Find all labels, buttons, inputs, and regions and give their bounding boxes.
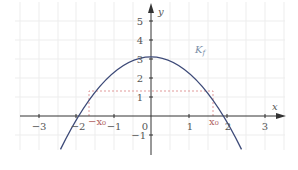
grid	[15, 2, 285, 150]
x-axis-label: x	[272, 101, 278, 112]
y-axis-arrow-icon	[148, 3, 154, 13]
parabola-chart: −3 −2 −1 0 1 2 3 5 4 3 2 1 −1 y x −x₀ x₀…	[0, 0, 298, 170]
x-tick-label: −1	[107, 121, 122, 132]
y-tick-label: 5	[137, 16, 143, 27]
x-tick-label: 1	[187, 121, 193, 132]
y-tick-label: 4	[137, 35, 143, 46]
y-tick-label: 2	[137, 73, 143, 84]
curve-label-kf: Kf	[194, 44, 206, 57]
x-tick-label: −2	[71, 121, 86, 132]
y-axis-label: y	[157, 6, 164, 17]
pos-x0-label: x₀	[209, 116, 219, 127]
x-tick-label: 3	[262, 121, 268, 132]
neg-x0-label: −x₀	[88, 116, 106, 127]
x-tick-label: −3	[32, 121, 47, 132]
y-tick-label: −1	[131, 130, 146, 141]
x-tick-label: 2	[225, 121, 231, 132]
y-axis	[148, 3, 154, 155]
y-tick-label: 1	[137, 92, 143, 103]
y-tick-label: 3	[137, 54, 143, 65]
